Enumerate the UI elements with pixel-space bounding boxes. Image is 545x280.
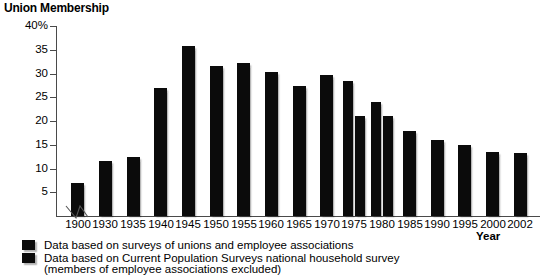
bar — [431, 140, 444, 216]
bar — [320, 75, 333, 216]
y-axis-tick — [50, 26, 57, 27]
bar — [403, 131, 416, 216]
bar — [371, 102, 381, 216]
legend-swatch-icon — [22, 240, 35, 250]
bar — [293, 86, 306, 216]
y-axis-tick — [50, 74, 57, 75]
y-axis-tick-label: 10 — [0, 163, 48, 174]
legend-item-union-surveys: Data based on surveys of unions and empl… — [22, 239, 542, 251]
bar — [458, 145, 471, 216]
y-axis-tick-label: 15 — [0, 139, 48, 150]
union-membership-chart: Union Membership 40%3530252015105 190019… — [0, 0, 545, 280]
y-axis-tick — [50, 97, 57, 98]
y-axis-tick-label: 35 — [0, 44, 48, 55]
y-axis-tick-label: 40% — [0, 20, 48, 31]
bar — [514, 153, 527, 216]
bar — [265, 72, 278, 216]
y-axis-tick — [50, 145, 57, 146]
bar — [486, 152, 499, 216]
bar — [355, 116, 365, 216]
x-axis-labels: 1900193019351940194519501955196019651970… — [0, 218, 545, 234]
y-axis-tick-label: 25 — [0, 91, 48, 102]
y-axis-tick — [50, 50, 57, 51]
bar — [210, 66, 223, 216]
chart-legend: Data based on surveys of unions and empl… — [22, 239, 542, 264]
chart-title: Union Membership — [4, 1, 109, 15]
x-axis-line — [56, 216, 540, 217]
x-axis-tick-label: 2002 — [503, 218, 537, 231]
legend-swatch-icon — [22, 253, 35, 263]
legend-item-label: Data based on surveys of unions and empl… — [44, 239, 353, 251]
bar — [127, 157, 140, 216]
bar — [383, 116, 393, 216]
bar — [99, 161, 112, 216]
legend-note: (members of employee associations exclud… — [44, 263, 281, 275]
y-axis-tick-label: 20 — [0, 115, 48, 126]
y-axis-tick — [50, 169, 57, 170]
bar — [182, 46, 195, 216]
y-axis-tick-label: 30 — [0, 68, 48, 79]
plot-area — [56, 26, 540, 216]
y-axis-tick — [50, 192, 57, 193]
y-axis-tick-label: 5 — [0, 186, 48, 197]
bar — [343, 81, 353, 216]
y-axis-tick — [50, 121, 57, 122]
bar — [237, 63, 250, 216]
bar — [154, 88, 167, 216]
